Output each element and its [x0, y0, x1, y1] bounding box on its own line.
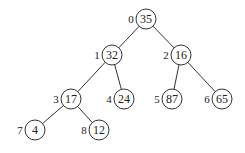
- node-index-label: 6: [204, 93, 210, 105]
- node-index-label: 5: [154, 93, 160, 105]
- tree-edge: [78, 106, 93, 122]
- tree-edge: [174, 65, 179, 89]
- tree-node: 244: [106, 89, 134, 109]
- tree-node: 47: [17, 120, 45, 140]
- node-index-label: 7: [17, 124, 23, 136]
- tree-edge: [119, 26, 139, 47]
- tree-node: 321: [94, 45, 122, 65]
- tree-diagram: 35032116217324487565647128: [0, 0, 245, 153]
- tree-node: 173: [53, 89, 81, 109]
- node-value: 65: [216, 92, 228, 106]
- node-index-label: 8: [81, 124, 87, 136]
- tree-edge: [43, 106, 64, 124]
- tree-node: 656: [204, 89, 232, 109]
- node-index-label: 4: [106, 93, 112, 105]
- node-value: 17: [65, 92, 77, 106]
- node-value: 24: [118, 92, 130, 106]
- node-index-label: 0: [128, 13, 134, 25]
- tree-edge: [78, 62, 105, 91]
- tree-node: 162: [163, 45, 191, 65]
- tree-edge: [153, 26, 174, 48]
- node-index-label: 3: [53, 93, 59, 105]
- tree-edge: [188, 62, 215, 91]
- node-index-label: 1: [94, 49, 100, 61]
- node-value: 35: [140, 12, 152, 26]
- node-value: 16: [175, 48, 187, 62]
- tree-node: 128: [81, 120, 109, 140]
- tree-node: 875: [154, 89, 182, 109]
- tree-edge: [115, 65, 122, 90]
- node-index-label: 2: [163, 49, 169, 61]
- node-value: 4: [32, 123, 38, 137]
- node-value: 87: [166, 92, 178, 106]
- node-value: 12: [93, 123, 105, 137]
- tree-node: 350: [128, 9, 156, 29]
- node-value: 32: [106, 48, 118, 62]
